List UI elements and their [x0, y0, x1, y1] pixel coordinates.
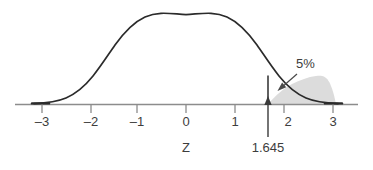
tail-percent-label: 5% — [296, 56, 315, 71]
x-tick-label-neg3: –3 — [35, 114, 49, 129]
x-tick-label-1: 1 — [231, 114, 238, 129]
x-tick-label-2: 2 — [284, 114, 291, 129]
normal-distribution-figure: –3 –2 –1 0 1 2 3 Z 1.645 5% — [0, 0, 373, 170]
x-axis-title: Z — [182, 140, 190, 155]
x-tick-label-0: 0 — [182, 114, 189, 129]
x-axis-ticks — [42, 105, 333, 114]
x-tick-label-neg1: –1 — [130, 114, 144, 129]
critical-value-label: 1.645 — [252, 140, 285, 155]
normal-curve — [34, 13, 338, 103]
x-tick-label-neg2: –2 — [84, 114, 98, 129]
x-tick-label-3: 3 — [329, 114, 336, 129]
